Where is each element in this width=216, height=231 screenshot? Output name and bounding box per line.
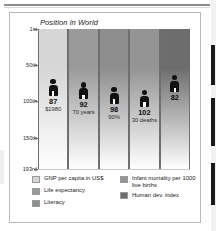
person-icon [77, 82, 90, 99]
plot-area: 1st50th100th150th193rd87$19809270 years9… [38, 29, 190, 169]
page-left-edge-artifact [0, 150, 4, 184]
y-axis-label: 100th [13, 98, 37, 104]
chart-title: Position in World [40, 18, 98, 27]
legend-label: Life expectancy [44, 187, 120, 194]
legend-swatch-icon [120, 192, 128, 199]
person-icon [168, 75, 181, 92]
legend-column-right: Infant mortality per 1000 live birthsHum… [120, 175, 200, 204]
legend-swatch-icon [32, 176, 40, 183]
page-edge-mark [211, 98, 215, 146]
y-axis-label: 150th [13, 135, 37, 141]
legend-item[interactable]: Life expectancy [32, 187, 120, 196]
page-top-rule [4, 4, 210, 6]
page-edge-mark [211, 163, 215, 205]
legend-label: Literacy [44, 199, 120, 206]
bar-value-label: 102 [126, 108, 162, 117]
person-icon [108, 87, 121, 104]
bar-detail-label: 30 deaths [126, 117, 162, 124]
legend-column-left: GNP per capita in US$Life expectancyLite… [32, 175, 120, 212]
legend-label: Infant mortality per 1000 live births [132, 175, 200, 189]
gridline [38, 169, 190, 170]
legend-item[interactable]: GNP per capita in US$ [32, 175, 120, 184]
legend-item[interactable]: Literacy [32, 199, 120, 208]
person-icon [47, 79, 60, 96]
legend-label: Human dev. index [132, 192, 200, 199]
page-edge-mark [211, 45, 215, 85]
y-axis-label: 1st [13, 26, 37, 32]
legend-item[interactable]: Infant mortality per 1000 live births [120, 175, 200, 189]
legend-swatch-icon [120, 176, 128, 183]
bar-value-label: 82 [157, 93, 193, 102]
legend-swatch-icon [32, 200, 40, 207]
legend-label: GNP per capita in US$ [44, 175, 120, 182]
y-axis-label: 50th [13, 62, 37, 68]
legend-item[interactable]: Human dev. index [120, 192, 200, 201]
chart-card: Position in World 1st50th100th150th193rd… [9, 12, 201, 223]
y-axis-label: 193rd [13, 166, 37, 172]
person-icon [138, 90, 151, 107]
legend-swatch-icon [32, 188, 40, 195]
page-top-rule-secondary [4, 7, 210, 8]
